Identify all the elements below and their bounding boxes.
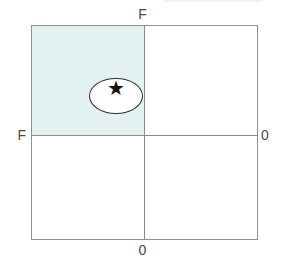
axis-label-left: F	[8, 128, 26, 142]
axis-label-top: F	[132, 7, 153, 21]
top-edge-artifact-line	[163, 0, 262, 2]
vertical-axis-line	[144, 25, 145, 240]
star-icon: ★	[103, 75, 129, 101]
axis-label-bottom: 0	[132, 243, 153, 257]
axis-label-right: 0	[261, 128, 281, 142]
horizontal-axis-line	[31, 135, 258, 136]
quadrant-diagram: ★ F F 0 0	[0, 0, 284, 270]
